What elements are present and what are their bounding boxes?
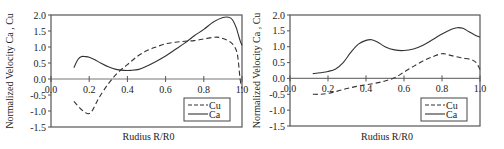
y-tick-label: -0.5	[269, 89, 285, 100]
y-tick-label: 0.0	[34, 74, 47, 85]
x-tick-label: 0.8	[198, 84, 211, 95]
legend-label-ca: Ca	[446, 109, 458, 120]
left-chart: 2.01.51.00.50.0-0.5-1.0-1.50.00.20.40.60…	[4, 10, 248, 143]
y-tick-label: 2.0	[273, 10, 286, 21]
y-tick-label: 2.0	[34, 10, 47, 21]
y-tick-label: -1.5	[269, 121, 285, 132]
y-tick-label: -1.0	[269, 105, 285, 116]
series-line-cu	[313, 54, 480, 95]
series-line-ca	[74, 17, 242, 71]
x-tick-label: 0.8	[436, 83, 449, 94]
x-tick-label: 0.0	[45, 84, 58, 95]
legend-box	[421, 98, 467, 121]
y-tick-label: 0.5	[273, 57, 286, 68]
y-tick-label: -1.5	[30, 122, 46, 133]
x-tick-label: 1.0	[236, 84, 249, 95]
y-tick-label: -1.0	[30, 106, 46, 117]
x-tick-label: 1.0	[474, 83, 487, 94]
y-axis-title: Normalized Velocity Ca , Cu	[4, 13, 15, 129]
y-tick-label: 1.5	[273, 25, 286, 36]
y-tick-label: -0.5	[30, 90, 46, 101]
x-tick-label: 0.0	[284, 83, 297, 94]
x-axis-title: Rudius R/R0	[361, 131, 413, 142]
y-tick-label: 0.0	[273, 73, 286, 84]
x-axis-title: Rudius R/R0	[123, 131, 175, 142]
y-tick-label: 1.0	[273, 41, 286, 52]
x-tick-label: 0.6	[159, 84, 172, 95]
x-tick-label: 0.4	[121, 84, 134, 95]
x-tick-label: 0.2	[83, 84, 96, 95]
legend-label-ca: Ca	[209, 109, 221, 120]
series-line-ca	[313, 28, 480, 74]
right-chart: 2.01.51.00.50.0-0.5-1.0-1.50.00.20.40.60…	[251, 10, 486, 143]
y-tick-label: 1.5	[34, 26, 47, 37]
x-tick-label: 0.6	[398, 83, 411, 94]
y-tick-label: 1.0	[34, 42, 47, 53]
legend-box	[184, 98, 230, 121]
y-axis-title: Normalized Velocity Ca , Cu	[251, 13, 262, 129]
y-tick-label: 0.5	[34, 58, 47, 69]
chart-figure: 2.01.51.00.50.0-0.5-1.0-1.50.00.20.40.60…	[0, 0, 504, 149]
